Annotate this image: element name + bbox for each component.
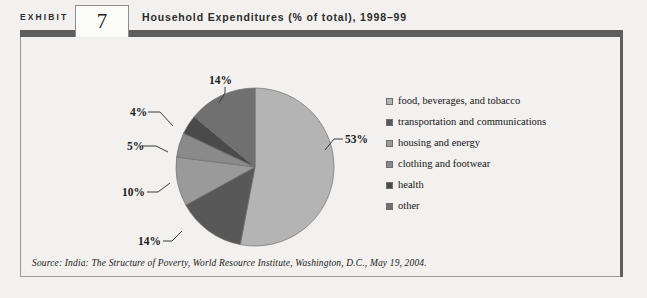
legend-swatch-icon	[386, 203, 393, 210]
legend-item: clothing and footwear	[386, 158, 576, 170]
legend-item-label: clothing and footwear	[398, 158, 490, 170]
pie-chart-svg	[175, 87, 335, 247]
pie-chart	[175, 87, 335, 247]
legend-item-label: housing and energy	[398, 137, 480, 149]
slice-label-transportation: 14%	[138, 235, 161, 247]
exhibit-number-box: 7	[75, 5, 129, 38]
legend-item: transportation and communications	[386, 116, 576, 128]
legend-item: food, beverages, and tobacco	[386, 95, 576, 107]
legend-item: health	[386, 179, 576, 191]
legend-swatch-icon	[386, 98, 393, 105]
legend-item-label: food, beverages, and tobacco	[398, 95, 520, 107]
legend-swatch-icon	[386, 182, 393, 189]
source-note: Source: India: The Structure of Poverty,…	[32, 258, 427, 268]
exhibit-page: EXHIBIT 7 Household Expenditures (% of t…	[0, 0, 647, 298]
frame-right-shadow	[620, 30, 623, 277]
legend-item-label: transportation and communications	[398, 116, 546, 128]
page-title: Household Expenditures (% of total), 199…	[142, 11, 407, 23]
legend-item: housing and energy	[386, 137, 576, 149]
header-rule-left	[20, 30, 75, 37]
header-rule-right	[129, 30, 623, 37]
legend-item-label: other	[398, 200, 420, 212]
slice-label-food: 53%	[345, 133, 368, 145]
exhibit-label: EXHIBIT	[20, 12, 68, 22]
legend-item: other	[386, 200, 576, 212]
slice-label-other: 14%	[209, 74, 232, 86]
slice-label-clothing: 5%	[127, 140, 144, 152]
chart-legend: food, beverages, and tobaccotransportati…	[386, 95, 576, 221]
legend-swatch-icon	[386, 140, 393, 147]
slice-label-health: 4%	[130, 106, 147, 118]
legend-item-label: health	[398, 179, 424, 191]
legend-swatch-icon	[386, 161, 393, 168]
exhibit-number: 7	[97, 11, 108, 32]
slice-label-housing: 10%	[122, 186, 145, 198]
legend-swatch-icon	[386, 119, 393, 126]
